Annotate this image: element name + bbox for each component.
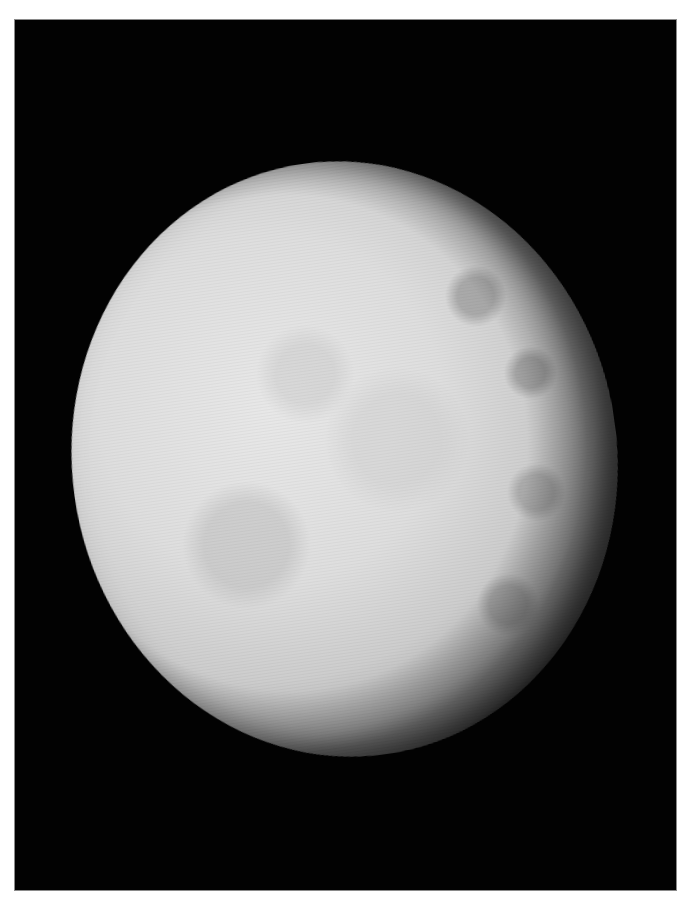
moon-disc <box>33 126 656 792</box>
photo-frame <box>14 19 677 891</box>
limb-shadow <box>33 126 656 792</box>
